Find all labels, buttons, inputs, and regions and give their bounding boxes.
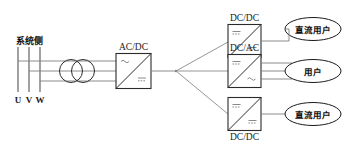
converter-dc-ac-mid-label: DC/AC	[230, 43, 259, 53]
phase-label-w: W	[36, 95, 45, 105]
converter-dc-dc-bottom	[228, 98, 261, 131]
source-bus-group	[18, 47, 40, 92]
load-node-top-label: 直流用户	[295, 25, 331, 35]
load-node-bottom-label: 直流用户	[295, 110, 331, 120]
converter-ac-dc-label: AC/DC	[119, 42, 148, 52]
three-phase-feeder-group	[18, 61, 116, 81]
fanout-branch-bottom	[176, 71, 228, 114]
fanout-branch-group	[176, 42, 228, 114]
load-node-bottom: 直流用户	[285, 103, 341, 126]
load-node-mid: 用户	[285, 60, 341, 83]
phase-label-v: V	[26, 95, 33, 105]
converter-dc-ac-mid	[228, 55, 261, 88]
phase-label-u: U	[15, 95, 22, 105]
diagram-canvas: 系统侧 U V W AC/DC	[0, 0, 343, 144]
load-node-mid-label: 用户	[303, 67, 322, 77]
power-system-diagram: 系统侧 U V W AC/DC	[0, 0, 343, 144]
fanout-branch-top	[176, 42, 228, 71]
converter-dc-dc-top-label: DC/DC	[230, 13, 259, 23]
converter-ac-dc	[116, 54, 151, 89]
load-node-top: 直流用户	[285, 18, 341, 41]
converter-dc-dc-bottom-label: DC/DC	[230, 132, 259, 142]
source-side-label: 系统侧	[16, 35, 43, 46]
